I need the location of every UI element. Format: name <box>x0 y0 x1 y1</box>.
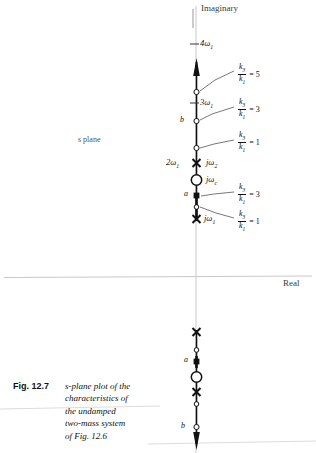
marker-open-circle-k3-upper <box>194 205 199 210</box>
marker-open-circle-lower-1 <box>194 348 199 353</box>
pole-label-jw2: jω2 <box>206 158 217 169</box>
ratio-value: = 1 <box>249 138 260 147</box>
ratio-value: = 3 <box>249 105 260 114</box>
marker-open-circle-b-lower <box>194 424 199 429</box>
imaginary-axis-label: Imaginary <box>201 4 238 13</box>
point-label-a-lower: a <box>184 356 188 364</box>
marker-large-circle-minus-jwc <box>191 372 201 382</box>
real-axis-line <box>4 276 312 278</box>
point-label-a-upper: a <box>184 190 188 198</box>
ratio-value: = 5 <box>249 70 260 79</box>
marker-large-circle-jwc <box>191 175 201 185</box>
fraction-k3-k1: k3 k1 <box>238 210 246 232</box>
ratio-annotation-1-lower: k3 k1 = 1 <box>238 210 260 232</box>
marker-open-circle-lower-2 <box>194 402 199 407</box>
caption-line: characteristics of <box>65 392 175 404</box>
ratio-annotation-1-upper: k3 k1 = 1 <box>238 131 260 153</box>
figure-caption: s-plane plot of the characteristics of t… <box>65 380 175 442</box>
caption-line: s-plane plot of the <box>65 380 175 392</box>
ratio-value: = 3 <box>249 190 260 199</box>
tick-label-4w1: 4ω1 <box>200 39 213 50</box>
point-label-b-upper: b <box>180 116 184 124</box>
marker-square-a-lower <box>194 359 200 365</box>
real-axis-label: Real <box>283 279 300 288</box>
caption-line: of Fig. 12.6 <box>65 430 175 442</box>
marker-open-circle-k5 <box>194 89 199 94</box>
caption-line: the undamped <box>65 405 175 417</box>
fraction-k3-k1: k3 k1 <box>238 98 246 120</box>
marker-square-a-upper <box>194 193 200 199</box>
locus-arrow-up <box>193 58 200 76</box>
leader-ratio-1-upper <box>200 140 234 148</box>
figure-container: Imaginary Real s plane 4ω1 3ω1 2ω1 jω2 j… <box>0 0 316 453</box>
tick-label-2w1: 2ω1 <box>166 158 179 169</box>
s-plane-label: s plane <box>78 136 100 144</box>
ratio-annotation-3-lower: k3 k1 = 3 <box>238 183 260 205</box>
figure-number: Fig. 12.7 <box>13 381 49 391</box>
fraction-k3-k1: k3 k1 <box>238 63 246 85</box>
ratio-value: = 1 <box>249 217 260 226</box>
marker-open-circle-b-upper <box>194 118 199 123</box>
leader-ratio-3-lower <box>201 192 234 196</box>
locus-arrow-down <box>193 432 200 450</box>
leader-ratio-5 <box>200 71 234 91</box>
pole-label-jwc: jωc <box>206 175 217 186</box>
caption-line: two-mass system <box>65 417 175 429</box>
fraction-k3-k1: k3 k1 <box>238 183 246 205</box>
marker-open-circle-k1-upper <box>194 145 199 150</box>
ratio-annotation-5: k3 k1 = 5 <box>238 63 260 85</box>
ratio-annotation-3-upper: k3 k1 = 3 <box>238 98 260 120</box>
fraction-k3-k1: k3 k1 <box>238 131 246 153</box>
pole-label-jw1: jω1 <box>204 214 215 225</box>
tick-label-3w1: 3ω1 <box>200 98 213 109</box>
point-label-b-lower: b <box>181 422 185 430</box>
